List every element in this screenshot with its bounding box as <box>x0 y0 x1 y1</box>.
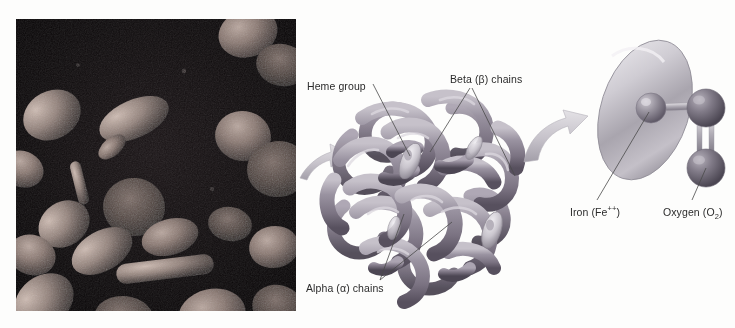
label-heme-group: Heme group <box>307 81 366 92</box>
hemoglobin-figure: Heme group Beta (β) chains Alpha (α) cha… <box>0 0 735 328</box>
label-alpha-chains: Alpha (α) chains <box>306 283 384 294</box>
heme-plate-detail <box>581 28 725 192</box>
iron-atom-sphere <box>636 93 666 123</box>
label-iron: Iron (Fe++) <box>570 205 620 217</box>
label-oxygen-suffix: ) <box>719 206 723 218</box>
label-iron-prefix: Iron (Fe <box>570 206 608 218</box>
label-oxygen: Oxygen (O2) <box>663 207 723 221</box>
label-iron-suffix: ) <box>617 206 621 218</box>
oxygen-atom-sphere-upper <box>687 89 725 127</box>
illustration-layer <box>0 0 735 328</box>
label-beta-chains: Beta (β) chains <box>450 74 522 85</box>
label-oxygen-prefix: Oxygen (O <box>663 206 715 218</box>
arrow-molecule-to-heme <box>524 110 588 162</box>
label-iron-charge: ++ <box>608 204 617 213</box>
hemoglobin-molecule <box>327 96 518 302</box>
